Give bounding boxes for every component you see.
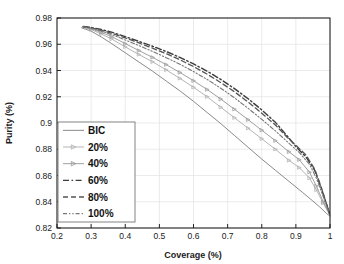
x-tick-label: 0.3 [85, 231, 97, 241]
y-axis-label: Purity (%) [4, 102, 14, 144]
legend: BIC20%40%60%80%100% [58, 122, 135, 222]
x-tick-label: 0.9 [290, 231, 302, 241]
y-tick-label: 0.82 [35, 223, 52, 233]
x-tick-label: 0.7 [222, 231, 234, 241]
chart-canvas: 0.20.30.40.50.60.70.80.910.820.840.860.8… [0, 0, 344, 264]
legend-item-label[interactable]: BIC [88, 125, 105, 136]
x-tick-label: 0.5 [153, 231, 165, 241]
legend-item-label[interactable]: 20% [88, 142, 108, 153]
x-axis-label: Coverage (%) [164, 250, 222, 260]
legend-item-label[interactable]: 80% [88, 192, 108, 203]
y-tick-label: 0.96 [35, 39, 52, 49]
y-tick-label: 0.94 [35, 66, 52, 76]
legend-item-label[interactable]: 100% [88, 208, 114, 219]
figure-container: 0.20.30.40.50.60.70.80.910.820.840.860.8… [0, 0, 344, 264]
x-tick-label: 1 [328, 231, 333, 241]
x-tick-label: 0.2 [51, 231, 63, 241]
y-tick-label: 0.84 [35, 197, 52, 207]
x-tick-label: 0.6 [188, 231, 200, 241]
y-tick-label: 0.9 [40, 118, 52, 128]
y-tick-label: 0.98 [35, 13, 52, 23]
legend-item-label[interactable]: 40% [88, 158, 108, 169]
x-tick-label: 0.4 [119, 231, 131, 241]
legend-item-label[interactable]: 60% [88, 175, 108, 186]
y-tick-label: 0.86 [35, 171, 52, 181]
legend-box [58, 122, 135, 222]
y-tick-label: 0.88 [35, 144, 52, 154]
x-tick-label: 0.8 [256, 231, 268, 241]
y-tick-label: 0.92 [35, 92, 52, 102]
